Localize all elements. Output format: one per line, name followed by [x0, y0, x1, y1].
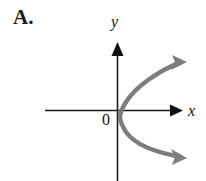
- y-axis-arrowhead-icon: [112, 42, 124, 56]
- x-axis-label: x: [188, 103, 195, 119]
- parabola-upper-arrowhead-icon: [171, 55, 187, 70]
- figure-panel: A. y x 0: [0, 0, 206, 181]
- coordinate-plot: [0, 0, 206, 181]
- x-axis: [45, 105, 183, 117]
- y-axis-label: y: [111, 14, 118, 30]
- origin-label: 0: [102, 112, 110, 128]
- x-axis-arrowhead-icon: [170, 105, 183, 117]
